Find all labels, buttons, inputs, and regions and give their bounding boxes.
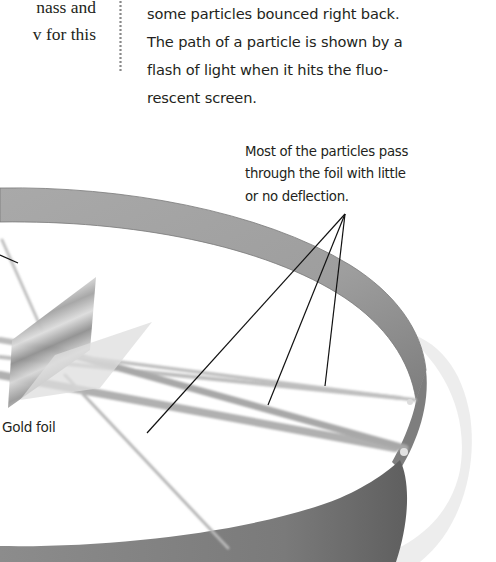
gold-foil-label: Gold foil [2,419,56,435]
callout-line: or no deflection. [245,186,485,208]
deflection-callout: Most of the particles pass through the f… [245,141,485,208]
gold-foil-diagram [0,0,496,562]
fluorescent-screen-right [392,370,427,470]
callout-line: Most of the particles pass [245,141,485,163]
impact-flash [400,448,408,456]
impact-flash [407,399,413,405]
callout-line: through the foil with little [245,163,485,185]
fluorescent-screen-front [0,460,407,562]
